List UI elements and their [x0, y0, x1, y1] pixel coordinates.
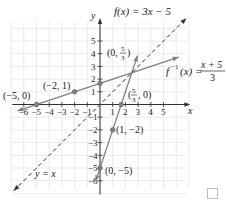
y-tick-label: −3: [88, 138, 98, 148]
series-arrow-icon-0: [133, 56, 137, 62]
y-tick-label: −5: [88, 163, 98, 173]
data-point-5: [98, 166, 103, 171]
x-tick-label: 1: [110, 107, 115, 117]
y-tick-label: 4: [91, 49, 96, 59]
y-tick-label: 2: [91, 74, 96, 84]
x-tick-label: 2: [123, 107, 128, 117]
series-line-0: [96, 56, 138, 182]
data-point-1: [119, 102, 124, 107]
corner-checkbox[interactable]: [207, 188, 218, 199]
x-tick-label: −5: [32, 107, 42, 117]
x-axis-label: x: [187, 105, 193, 116]
y-axis-arrow-icon: [98, 18, 102, 24]
point-label-0-5-3-pre: (0,: [107, 47, 118, 59]
x-tick-label: −3: [57, 107, 67, 117]
point-label-5-3-0-post: , 0): [138, 89, 151, 101]
y-tick-label: −4: [88, 151, 98, 161]
f-inverse-label-num: x + 5: [200, 59, 222, 70]
y-axis-label: y: [90, 10, 96, 21]
function-inverse-graph: −6−5−4−3−2−11234554321−1−2−3−4−5−6 x y f…: [0, 0, 226, 206]
point-label-0-5-3-post: ): [127, 47, 130, 59]
series-arrow-icon-1: [172, 57, 178, 61]
point-label-5-3-0: ( 5 3 , 0): [128, 87, 151, 104]
x-tick-label: 5: [161, 107, 166, 117]
data-point-3: [34, 102, 39, 107]
point-label-0-5-3-num: 5: [121, 45, 125, 53]
point-label-neg5-0: (−5, 0): [3, 90, 30, 102]
data-point-0: [98, 81, 103, 86]
data-point-4: [110, 128, 115, 133]
f-inverse-label-den: 3: [210, 72, 215, 83]
point-label-0-neg5: (0, −5): [105, 165, 132, 177]
f-inverse-label-sup: −1: [171, 63, 179, 71]
f-label: f(x) = 3x − 5: [114, 5, 171, 18]
x-tick-label: −4: [44, 107, 54, 117]
x-tick-label: −2: [70, 107, 80, 117]
point-label-neg2-1: (−2, 1): [43, 80, 70, 92]
y-tick-label: 1: [91, 87, 96, 97]
y-tick-label: 3: [91, 62, 96, 72]
y-tick-label: −2: [88, 125, 98, 135]
point-label-5-3-0-den: 3: [132, 96, 136, 104]
x-tick-label: 4: [148, 107, 153, 117]
x-tick-label: 3: [136, 107, 141, 117]
point-label-0-5-3-den: 3: [121, 54, 125, 62]
point-label-5-3-0-num: 5: [132, 87, 136, 95]
f-inverse-label-mid: (x) =: [180, 65, 202, 78]
identity-line-label: y = x: [34, 168, 56, 179]
point-label-1-neg2: (1, −2): [116, 124, 143, 136]
y-tick-label: −1: [88, 112, 98, 122]
y-tick-label: 5: [91, 36, 96, 46]
data-point-2: [72, 90, 77, 95]
